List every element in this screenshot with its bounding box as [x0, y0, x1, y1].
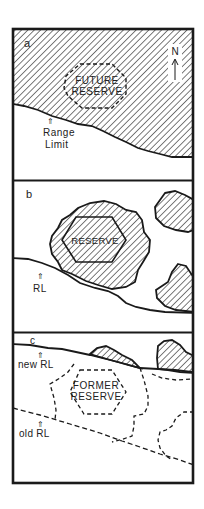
remnant-population-right — [157, 340, 194, 373]
new-rl-label: new RL — [18, 359, 54, 370]
north-arrow-icon: N — [168, 44, 182, 82]
panel-b-label: b — [26, 188, 32, 200]
old-rl-label: old RL — [19, 428, 50, 439]
rl-arrow-icon: ⇑ — [37, 272, 44, 281]
outside-population-top — [155, 191, 194, 232]
panel-b — [13, 191, 194, 313]
range-limit-label-2: Limit — [45, 139, 69, 150]
former-reserve-label-1: FORMER — [73, 380, 119, 391]
former-population-outline — [50, 364, 148, 442]
future-reserve-label-2: RESERVE — [71, 86, 122, 97]
reserve-label: RESERVE — [71, 235, 118, 246]
outside-population-bottom — [156, 264, 194, 312]
range-limit-diagram: a FUTURE RESERVE ⇑ Range Limit N b RESER… — [0, 0, 204, 509]
panel-c-label: c — [30, 335, 35, 346]
range-limit-arrow-icon: ⇑ — [47, 117, 54, 126]
rl-label-b: RL — [33, 283, 47, 294]
former-reserve-label-2: RESERVE — [70, 391, 121, 402]
former-population-outline-right — [152, 374, 194, 460]
north-label: N — [171, 46, 178, 57]
future-reserve-label-1: FUTURE — [75, 75, 119, 86]
panel-a-label: a — [24, 37, 31, 49]
range-limit-label-1: Range — [43, 127, 75, 138]
